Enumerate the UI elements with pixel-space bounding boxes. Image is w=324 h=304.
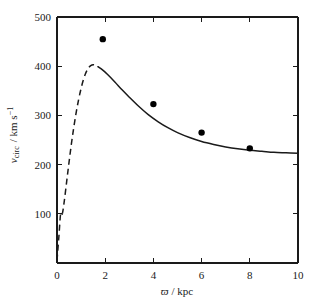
y-axis-title: vcirc/ km s−1: [6, 107, 21, 163]
y-axis-unit-exponent: −1: [6, 107, 15, 116]
y-axis-subscript: circ: [12, 146, 21, 158]
rotation-curve-figure: 100200300400500 0246810 ϖ/ kpc vcirc/ km…: [0, 0, 324, 304]
x-axis-symbol: ϖ: [161, 285, 169, 297]
plot-canvas: [0, 0, 324, 304]
x-tick-label: 10: [293, 270, 304, 281]
x-tick-label: 8: [247, 270, 253, 281]
curve-dashed-inner: [57, 65, 98, 261]
data-point: [150, 101, 156, 107]
y-tick-label: 300: [35, 110, 52, 121]
x-tick-label: 0: [54, 270, 60, 281]
x-tick-label: 2: [102, 270, 108, 281]
curve-solid-outer: [98, 67, 298, 154]
y-tick-label: 100: [35, 208, 52, 219]
data-point: [247, 145, 253, 151]
y-axis-unit: / km s: [7, 115, 19, 142]
axis-ticks: [57, 17, 298, 263]
y-tick-label: 200: [35, 159, 52, 170]
data-points: [100, 36, 253, 152]
y-tick-label: 500: [35, 12, 52, 23]
data-point: [198, 129, 204, 135]
x-tick-label: 4: [151, 270, 157, 281]
y-axis-symbol: v: [7, 158, 19, 163]
x-axis-title: ϖ/ kpc: [161, 285, 193, 297]
x-tick-label: 6: [199, 270, 205, 281]
axes-frame: [57, 17, 298, 263]
y-tick-label: 400: [35, 61, 52, 72]
x-axis-unit: / kpc: [172, 285, 194, 297]
data-point: [100, 36, 106, 42]
